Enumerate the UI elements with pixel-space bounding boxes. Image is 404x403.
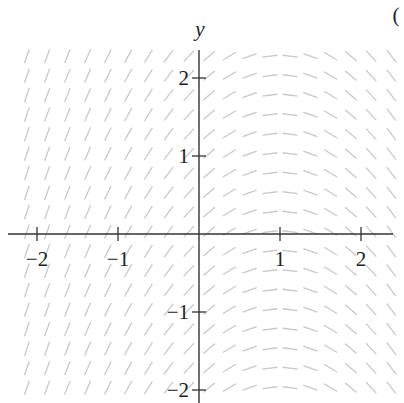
slope-segment	[387, 148, 396, 160]
slope-segment	[45, 127, 50, 141]
slope-segment	[144, 225, 152, 238]
slope-segment	[324, 208, 337, 216]
slope-segment	[124, 50, 131, 63]
slope-segment	[105, 108, 112, 121]
slope-segment	[164, 70, 173, 82]
slope-segment	[25, 69, 30, 83]
slope-segment	[283, 231, 298, 233]
slope-segment	[303, 210, 317, 215]
slope-segment	[164, 167, 173, 179]
slope-segment	[25, 303, 30, 317]
slope-segment	[203, 363, 214, 373]
slope-segment	[124, 167, 131, 180]
slope-segment	[25, 166, 30, 180]
slope-segment	[203, 266, 214, 276]
slope-segment	[243, 54, 257, 59]
slope-segment	[144, 128, 152, 141]
slope-segment	[366, 226, 376, 237]
slope-segment	[324, 52, 337, 60]
slope-segment	[324, 364, 337, 372]
slope-segment	[85, 361, 91, 375]
slope-segment	[184, 187, 194, 198]
slope-segment	[45, 381, 50, 395]
slope-segment	[243, 385, 257, 390]
slope-segment	[223, 52, 236, 60]
slope-segment	[324, 345, 337, 353]
slope-segment	[144, 323, 152, 336]
slope-segment	[144, 69, 152, 82]
slope-segment	[345, 71, 356, 81]
slope-segment	[324, 111, 337, 119]
axes	[8, 50, 393, 403]
slope-segment	[65, 342, 71, 356]
slope-segment	[45, 166, 50, 180]
slope-segment	[25, 127, 30, 141]
slope-segment	[85, 69, 91, 83]
slope-segment	[124, 342, 131, 355]
slope-segment	[65, 166, 71, 180]
slope-segment	[283, 211, 298, 213]
slope-segment	[366, 109, 376, 120]
slope-segment	[45, 225, 50, 239]
slope-segment	[283, 55, 298, 57]
slope-segment	[303, 249, 317, 254]
slope-segment	[366, 207, 376, 218]
slope-segment	[303, 385, 317, 390]
slope-segment	[324, 72, 337, 80]
slope-segment	[283, 114, 298, 116]
slope-segment	[65, 225, 71, 239]
slope-segment	[25, 381, 30, 395]
slope-segment	[124, 225, 131, 238]
slope-segment	[243, 171, 257, 176]
slope-segment	[243, 288, 257, 293]
slope-segment	[45, 322, 50, 336]
slope-segment	[85, 186, 91, 200]
slope-segment	[262, 309, 277, 311]
slope-segment	[45, 147, 50, 161]
slope-segment	[303, 268, 317, 273]
slope-segment	[184, 51, 194, 62]
slope-segment	[85, 166, 91, 180]
slope-segment	[164, 284, 173, 296]
slope-segment	[262, 211, 277, 213]
slope-segment	[203, 324, 214, 334]
slope-segment	[65, 361, 71, 375]
slope-segment	[184, 343, 194, 354]
slope-segment	[283, 387, 298, 389]
tick-labels: −2−112−2−112y(	[26, 3, 400, 402]
slope-segment	[387, 323, 396, 335]
slope-segment	[45, 49, 50, 63]
x-tick-label: 1	[275, 247, 286, 271]
slope-segment	[105, 225, 112, 238]
slope-segment	[124, 323, 131, 336]
y-axis-label: y	[193, 17, 205, 41]
slope-segment	[164, 245, 173, 257]
slope-segment	[262, 153, 277, 155]
slope-segment	[303, 190, 317, 195]
slope-segment	[124, 147, 131, 160]
slope-segment	[184, 246, 194, 257]
slope-segment	[105, 381, 112, 394]
slope-segment	[243, 366, 257, 371]
slope-segment	[65, 322, 71, 336]
slope-segment	[324, 247, 337, 255]
slope-segment	[387, 206, 396, 218]
slope-segment	[65, 205, 71, 219]
slope-segment	[324, 306, 337, 314]
slope-segment	[203, 227, 214, 237]
slope-segment	[387, 167, 396, 179]
slope-segment	[203, 344, 214, 354]
slope-segment	[144, 284, 152, 297]
slope-segment	[262, 328, 277, 330]
slope-segment	[184, 90, 194, 101]
slope-segment	[283, 328, 298, 330]
x-tick-label: 2	[356, 247, 367, 271]
slope-segment	[164, 187, 173, 199]
x-tick-label: −1	[107, 247, 129, 271]
slope-segment	[124, 303, 131, 316]
slope-segment	[203, 149, 214, 159]
slope-segment	[387, 128, 396, 140]
slope-segment	[144, 342, 152, 355]
slope-segment	[105, 186, 112, 199]
slope-segment	[345, 305, 356, 315]
